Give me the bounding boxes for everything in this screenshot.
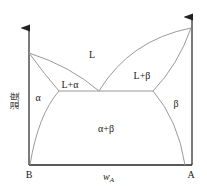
composition-axis-label: wA	[103, 171, 115, 184]
region-alpha-beta-label: α+β	[98, 123, 114, 134]
phase-diagram: L L+α L+β α β α+β B A wA 温度	[0, 0, 207, 189]
region-liquid-alpha-label: L+α	[62, 79, 80, 90]
solvus-alpha-line	[30, 91, 59, 165]
region-liquid-label: L	[89, 49, 95, 60]
component-b-label: B	[26, 169, 33, 180]
region-liquid-beta-label: L+β	[134, 70, 151, 81]
solvus-beta-line	[153, 91, 185, 165]
region-alpha-label: α	[35, 92, 41, 103]
temperature-axis-label: 温度	[9, 92, 20, 110]
component-a-label: A	[187, 169, 195, 180]
region-beta-label: β	[173, 98, 178, 109]
